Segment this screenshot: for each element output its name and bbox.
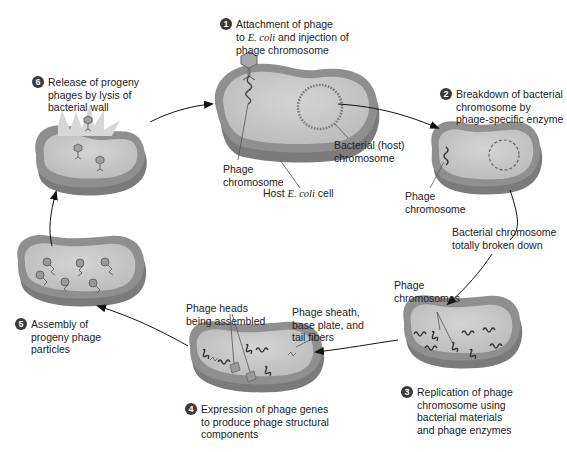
cell-step-3 [403, 295, 522, 368]
step-2-label: 2 Breakdown of bacterial chromosome by p… [440, 88, 563, 126]
step-3-label: 3 Replication of phage chromosome using … [401, 386, 513, 436]
step-6-label: 6 Release of progeny phages by lysis of … [32, 76, 139, 114]
arrow-6-to-1 [150, 104, 212, 122]
step-1-label: 1 Attachment of phage to E. coli and inj… [220, 18, 349, 57]
label-phage-heads: Phage heads being assembled [186, 302, 265, 327]
step-6-number-badge: 6 [32, 76, 44, 88]
host-cell-ecoli: E. coli [288, 188, 315, 199]
step-2-text: Breakdown of bacterial chromosome by pha… [440, 88, 563, 126]
step-5-text: Assembly of progeny phage particles [15, 318, 101, 356]
label-bacterial-host-chromosome: Bacterial (host) chromosome [334, 139, 405, 164]
step-1-line-1: Attachment of phage [236, 18, 333, 30]
label-phage-chromosome-1: Phage chromosome [223, 163, 284, 188]
step-3-number-badge: 3 [401, 386, 413, 398]
label-phage-chromosomes: Phage chromosomes [394, 279, 460, 304]
arrow-4-to-5 [98, 306, 188, 346]
step-5-number-badge: 5 [15, 318, 27, 330]
label-bacterial-chromosome-broken: Bacterial chromosome totally broken down [452, 226, 556, 251]
label-phage-sheath: Phage sheath, base plate, and tail fiber… [292, 306, 364, 344]
label-phage-chromosome-2: Phage chromosome [405, 190, 466, 215]
step-5-label: 5 Assembly of progeny phage particles [15, 318, 101, 356]
step-1-ecoli: E. coli [248, 32, 275, 43]
step-1-line-2-pre: to [236, 31, 248, 43]
cell-step-6 [35, 104, 146, 196]
step-6-text: Release of progeny phages by lysis of ba… [32, 76, 139, 114]
step-1-line-2-post: and injection of [275, 31, 349, 43]
step-4-number-badge: 4 [185, 403, 197, 415]
cell-step-2 [430, 121, 542, 194]
step-3-text: Replication of phage chromosome using ba… [401, 386, 513, 436]
step-1-number-badge: 1 [220, 18, 232, 30]
cell-step-5 [17, 235, 146, 306]
step-4-label: 4 Expression of phage genes to produce p… [185, 403, 329, 441]
step-2-number-badge: 2 [440, 88, 452, 100]
host-cell-pre: Host [263, 187, 288, 199]
step-1-line-3: phage chromosome [236, 44, 329, 56]
label-host-ecoli-cell: Host E. coli cell [263, 187, 334, 201]
step-4-text: Expression of phage genes to produce pha… [185, 403, 329, 441]
host-cell-post: cell [315, 187, 334, 199]
